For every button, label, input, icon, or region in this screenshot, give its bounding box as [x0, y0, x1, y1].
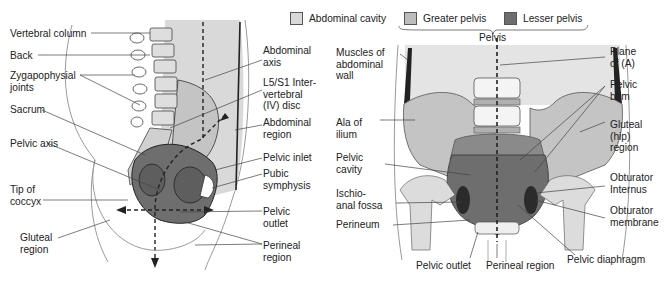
label-muscles-abdominal-wall: Muscles of abdominal wall: [336, 47, 385, 82]
label-abdominal-axis: Abdominal axis: [263, 45, 311, 68]
anatomy-illustrations: [0, 0, 665, 283]
label-vertebral-column: Vertebral column: [10, 28, 86, 40]
coronal-figure: [394, 38, 629, 262]
swatch-lesser-pelvis: [504, 12, 517, 25]
legend-label: Abdominal cavity: [309, 13, 386, 24]
swatch-greater-pelvis: [404, 12, 417, 25]
swatch-abdominal-cavity: [290, 12, 303, 25]
label-pelvic-brim: Pelvic brim: [610, 79, 637, 102]
label-pelvic-inlet: Pelvic inlet: [263, 152, 312, 164]
label-pelvic-axis: Pelvic axis: [10, 138, 58, 150]
legend-label: Greater pelvis: [423, 13, 486, 24]
label-gluteal-region-left: Gluteal region: [20, 232, 52, 255]
label-plane-of-a: Plane of (A): [610, 46, 636, 69]
label-gluteal-hip-region: Gluteal (hip) region: [610, 119, 642, 154]
legend-label: Lesser pelvis: [523, 13, 582, 24]
label-l5-s1-iv-disc: L5/S1 Inter- vertebral (IV) disc: [263, 77, 316, 112]
legend-group-label: Pelvis: [479, 32, 506, 44]
label-obturator-membrane: Obturator membrane: [610, 205, 659, 228]
legend-item-lesser-pelvis: Lesser pelvis: [504, 11, 582, 25]
label-perineum: Perineum: [336, 219, 380, 231]
label-perineal-region-right: Perineal region: [486, 260, 555, 272]
label-pelvic-diaphragm: Pelvic diaphragm: [567, 254, 645, 266]
label-pelvic-outlet-right: Pelvic outlet: [416, 260, 471, 272]
pelvis-diagram: Abdominal cavity Greater pelvis Lesser p…: [0, 0, 665, 283]
label-obturator-internus: Obturator Internus: [610, 172, 653, 195]
label-zygapophysial-joints: Zygapophysial joints: [10, 70, 76, 93]
label-pelvic-outlet-left: Pelvic outlet: [263, 206, 290, 229]
label-tip-of-coccyx: Tip of coccyx: [10, 184, 41, 207]
label-ala-of-ilium: Ala of ilium: [336, 117, 362, 140]
legend-item-abdominal-cavity: Abdominal cavity: [290, 11, 386, 25]
label-sacrum: Sacrum: [10, 104, 45, 116]
label-abdominal-region: Abdominal region: [263, 117, 311, 140]
label-pelvic-cavity: Pelvic cavity: [336, 152, 363, 175]
label-ischioanal-fossa: Ischio- anal fossa: [336, 188, 382, 211]
label-back: Back: [10, 50, 33, 62]
label-perineal-region-left: Perineal region: [263, 240, 300, 263]
legend-item-greater-pelvis: Greater pelvis: [404, 11, 486, 25]
label-pubic-symphysis: Pubic symphysis: [263, 168, 311, 191]
